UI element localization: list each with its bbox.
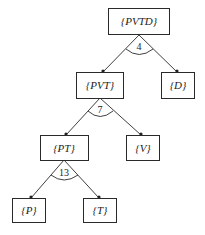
node-label: {PVTD} [121, 15, 158, 27]
edge-pvt-v [100, 98, 141, 135]
node-p: {P} [13, 199, 46, 223]
node-label: {T} [93, 204, 109, 216]
node-d: {D} [162, 73, 195, 99]
node-pt: {PT} [41, 136, 89, 161]
node-label: {V} [135, 142, 151, 154]
node-pvtd: {PVTD} [109, 9, 170, 35]
node-pvt: {PVT} [77, 73, 124, 99]
node-label: {PT} [53, 142, 75, 154]
node-t: {T} [84, 199, 117, 223]
node-v: {V} [127, 136, 160, 161]
edge-pvt-pt [66, 98, 100, 135]
node-label: {PVT} [86, 79, 115, 91]
decomposition-tree: 4 7 13 {PVTD} {PVT} {D} {PT} {V} {P} {T} [0, 0, 205, 235]
split-weight-7: 7 [98, 104, 103, 115]
split-weight-4: 4 [137, 41, 142, 52]
split-weight-13: 13 [59, 167, 69, 178]
edges [31, 35, 177, 198]
node-label: {D} [170, 79, 187, 91]
node-label: {P} [21, 204, 37, 216]
